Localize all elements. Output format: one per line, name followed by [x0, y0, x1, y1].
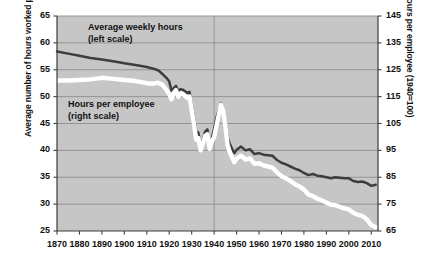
y-tick-label-left: 55 — [24, 64, 50, 74]
annotation-line: (left scale) — [88, 34, 183, 46]
y-tick-label-right: 115 — [386, 91, 412, 101]
y-tick-label-right: 75 — [386, 198, 412, 208]
y-tick-label-left: 40 — [24, 144, 50, 154]
y-tick-label-left: 45 — [24, 118, 50, 128]
y-tick-label-right: 105 — [386, 118, 412, 128]
series-annotation-hours-per-employee: Hours per employee(right scale) — [68, 99, 155, 122]
y-tick-label-right: 125 — [386, 64, 412, 74]
chart-container: Average number of hours worked per week … — [0, 0, 435, 260]
y-tick-label-right: 95 — [386, 144, 412, 154]
y-tick-label-right: 135 — [386, 37, 412, 47]
annotation-line: Hours per employee — [68, 99, 155, 111]
y-tick-label-left: 65 — [24, 10, 50, 20]
series-annotation-average-weekly-hours: Average weekly hours(left scale) — [88, 22, 183, 45]
y-tick-label-right: 85 — [386, 171, 412, 181]
annotation-line: (right scale) — [68, 111, 155, 123]
annotation-line: Average weekly hours — [88, 22, 183, 34]
y-tick-label-right: 145 — [386, 10, 412, 20]
y-tick-label-left: 60 — [24, 37, 50, 47]
x-tick-label: 2010 — [356, 239, 386, 249]
y-tick-label-left: 25 — [24, 225, 50, 235]
y-tick-label-right: 65 — [386, 225, 412, 235]
line-chart-plot — [0, 0, 435, 260]
y-tick-label-left: 30 — [24, 198, 50, 208]
y-tick-label-left: 35 — [24, 171, 50, 181]
y-tick-label-left: 50 — [24, 91, 50, 101]
